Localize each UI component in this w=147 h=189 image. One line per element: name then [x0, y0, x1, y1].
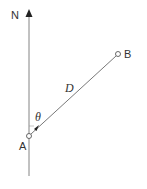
point-b-label: B: [124, 48, 131, 60]
distance-label: D: [64, 81, 74, 95]
north-label: N: [11, 9, 19, 21]
bearing-diagram: N θ A B D: [0, 0, 147, 189]
point-b: [116, 52, 121, 57]
angle-label: θ: [35, 110, 41, 124]
north-arrow-icon: [26, 9, 33, 17]
point-a: [27, 134, 32, 139]
point-a-label: A: [19, 140, 27, 152]
line-ab: [31, 56, 116, 134]
